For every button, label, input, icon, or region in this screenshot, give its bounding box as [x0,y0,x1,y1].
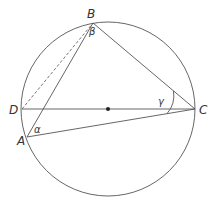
segment-ac [27,109,195,137]
segment-ab [27,23,93,137]
center-dot [106,107,110,111]
point-label-c: C [199,103,208,117]
angle-label-beta: β [88,26,96,37]
circle-geometry-diagram: B D C A α β γ [0,0,218,204]
angle-label-gamma: γ [158,96,165,107]
point-label-d: D [9,103,18,117]
angle-arc-gamma [167,91,174,114]
segment-bc [93,23,195,109]
point-label-a: A [16,134,25,148]
point-label-b: B [87,7,95,21]
angle-label-alpha: α [34,124,41,135]
